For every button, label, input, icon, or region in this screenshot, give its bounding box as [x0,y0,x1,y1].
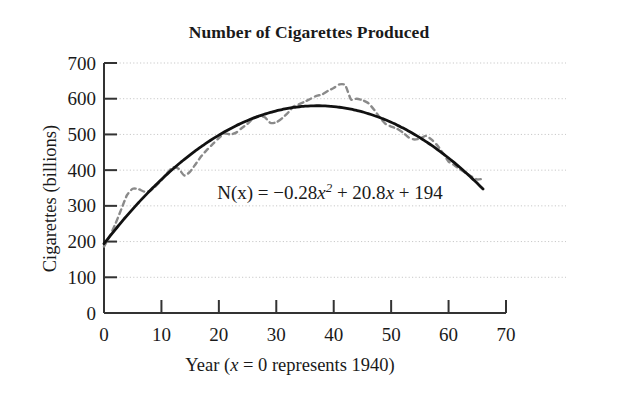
model-curve [104,106,483,244]
x-tick-label-60: 60 [439,324,458,345]
data-series-group [104,84,483,246]
y-tick-label-700: 700 [68,53,97,74]
y-tick-label-400: 400 [68,160,97,181]
x-tick-label-0: 0 [99,324,109,345]
y-tick-label-500: 500 [68,124,97,145]
y-tick-label-300: 300 [68,195,97,216]
y-tick-label-200: 200 [68,231,97,252]
x-tick-label-20: 20 [209,324,228,345]
ticks-group [104,63,506,313]
y-tick-label-600: 600 [68,88,97,109]
y-tick-label-0: 0 [87,303,97,324]
x-tick-label-10: 10 [152,324,171,345]
gridlines-group [106,63,566,277]
x-tick-label-40: 40 [324,324,343,345]
x-tick-label-30: 30 [267,324,286,345]
x-tick-label-70: 70 [497,324,516,345]
x-tick-label-50: 50 [382,324,401,345]
figure-container: Number of Cigarettes Produced Cigarettes… [0,0,618,399]
y-tick-label-100: 100 [68,267,97,288]
axis-spines [104,63,506,313]
plot-area: 0100200300400500600700010203040506070 [0,0,618,399]
